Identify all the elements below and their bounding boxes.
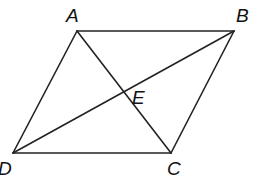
vertex-label-c: C (167, 159, 181, 178)
diagram-canvas: A B C D E (0, 0, 259, 193)
vertex-label-b: B (236, 6, 249, 25)
diagonal-bd (13, 31, 234, 153)
intersection-label-e: E (132, 88, 145, 107)
vertex-label-a: A (66, 6, 79, 25)
vertex-label-d: D (0, 159, 12, 178)
parallelogram-figure (0, 0, 259, 193)
